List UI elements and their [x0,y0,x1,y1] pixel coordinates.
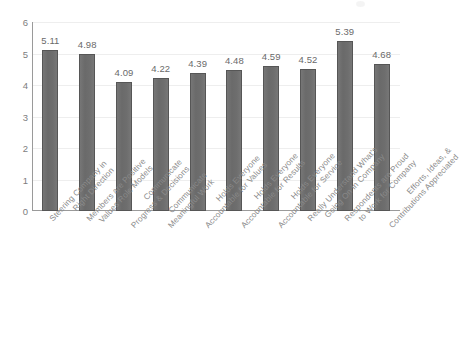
bar-value-label: 4.22 [151,63,170,74]
bar-value-label: 4.09 [115,67,134,78]
bar-value-label: 4.98 [78,39,97,50]
y-tick-label: 4 [4,80,28,91]
bar-value-label: 5.11 [41,35,59,46]
bar-slot: 5.11 [32,22,69,211]
bar-value-label: 4.52 [299,54,318,65]
y-tick-label: 6 [4,17,28,28]
category-slot: Steering Company in Right Direction [32,213,69,344]
bar-value-label: 4.59 [262,51,281,62]
bar-value-label: 4.48 [225,55,244,66]
table-row[interactable] [42,50,58,211]
category-slot: Holds Everyone Accountable for Values [179,213,216,344]
y-tick-label: 3 [4,111,28,122]
category-slot: Communicate Progress & Decisions [106,213,143,344]
y-tick-label: 1 [4,174,28,185]
category-slot: Efforts, Ideas, & Contributions Apprecia… [363,213,400,344]
category-slot: Holds Everyone Accountable for Service [253,213,290,344]
category-slot: Communicate Meaningful Work [142,213,179,344]
category-slot: Really Understand What's Going On in Com… [290,213,327,344]
image-artifact [356,1,365,7]
bar-value-label: 5.39 [335,26,354,37]
category-slot: Members are Positive Values Role Models [69,213,106,344]
y-tick-label: 2 [4,143,28,154]
bar-value-label: 4.68 [372,49,391,60]
bar-value-label: 4.39 [188,58,207,69]
y-tick-label: 0 [4,206,28,217]
y-tick-label: 5 [4,48,28,59]
category-slot: Holds Everyone Accountable for Results [216,213,253,344]
category-slot: Respondents are Proud to Work for Compan… [326,213,363,344]
x-axis-category-labels: Steering Company in Right Direction Memb… [32,213,400,344]
